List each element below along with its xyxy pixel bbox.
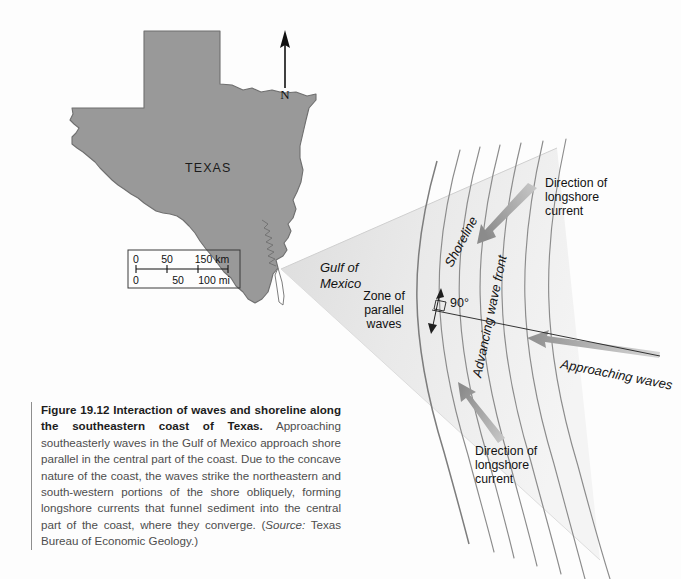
scale-mi-tick-50: 50: [172, 274, 184, 286]
zone-label-line2: parallel: [364, 303, 404, 317]
figure-caption-body-1: Approaching southeasterly waves in the G…: [41, 419, 341, 530]
longshore-bottom-line1: Direction of: [475, 444, 538, 458]
longshore-top-line1: Direction of: [545, 176, 608, 190]
right-angle-label: 90°: [450, 296, 469, 310]
north-arrow: N: [280, 30, 290, 102]
longshore-bottom-line2: longshore: [475, 458, 529, 472]
longshore-top-line3: current: [545, 204, 584, 218]
scale-km-tick-0: 0: [133, 253, 139, 265]
longshore-bottom-line3: current: [475, 472, 514, 486]
figure-page: N 0 50 150 km 0 50 100 mi TEXAS Gulf of …: [0, 0, 681, 579]
state-name-label: TEXAS: [185, 161, 232, 175]
zone-of-parallel-waves-label: Zone of parallel waves: [363, 289, 405, 331]
scale-mi-tick-100: 100 mi: [198, 274, 230, 286]
scale-km-tick-150: 150 km: [195, 253, 230, 265]
longshore-current-label-top: Direction of longshore current: [545, 176, 608, 218]
map-scale-bar: 0 50 150 km 0 50 100 mi: [128, 250, 240, 288]
zone-label-line1: Zone of: [363, 289, 405, 303]
figure-caption: Figure 19.12 Interaction of waves and sh…: [31, 402, 341, 550]
north-arrow-label: N: [280, 87, 290, 102]
figure-caption-text: Figure 19.12 Interaction of waves and sh…: [41, 402, 341, 550]
gulf-label-line2: Mexico: [320, 276, 361, 291]
longshore-top-line2: longshore: [545, 190, 599, 204]
scale-km-tick-50: 50: [161, 253, 173, 265]
zone-label-line3: waves: [366, 317, 402, 331]
figure-caption-source-label: Source:: [265, 518, 305, 531]
scale-mi-tick-0: 0: [133, 274, 139, 286]
gulf-of-mexico-label: Gulf of Mexico: [320, 260, 361, 291]
gulf-label-line1: Gulf of: [320, 260, 360, 275]
